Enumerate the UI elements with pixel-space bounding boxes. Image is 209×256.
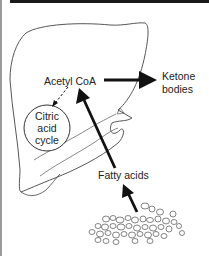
label-bodies: bodies bbox=[162, 83, 193, 95]
label-acid: acid bbox=[34, 122, 60, 134]
label-fatty-acids: Fatty acids bbox=[98, 169, 149, 181]
arrowhead-acetylcoa bbox=[76, 88, 90, 104]
arrow-fattyacids-to-acetylcoa bbox=[84, 100, 115, 168]
liver-diagram bbox=[0, 0, 209, 256]
label-cycle: cycle bbox=[34, 134, 60, 146]
liver-lower-edge bbox=[21, 174, 60, 196]
liver-outline bbox=[10, 23, 148, 192]
label-ketone: Ketone bbox=[162, 70, 195, 82]
label-citric: Citric bbox=[34, 110, 60, 122]
label-acetyl-coa: Acetyl CoA bbox=[44, 75, 96, 87]
arrow-adipose-to-fattyacids bbox=[128, 193, 137, 212]
arrow-acetylcoa-to-citric-dashed bbox=[56, 87, 68, 102]
